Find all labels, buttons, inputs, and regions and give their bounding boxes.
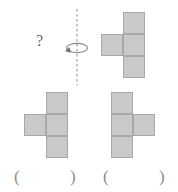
rotation-axis-group: [62, 8, 92, 86]
shape-option-a-bottom-left[interactable]: [24, 92, 70, 162]
shape-cell: [24, 114, 46, 136]
answer-blank-2[interactable]: ( ): [103, 168, 169, 188]
shape-cell: [111, 114, 133, 136]
shape-cell: [46, 114, 68, 136]
shape-option-b-bottom-right[interactable]: [111, 92, 157, 162]
shape-cell: [111, 136, 133, 158]
question-mark-label: ?: [36, 33, 43, 49]
shape-cell: [111, 92, 133, 114]
shape-cell: [133, 114, 155, 136]
puzzle-canvas: ? ( ) ( ): [0, 0, 178, 192]
shape-cell: [123, 56, 145, 78]
shape-cell: [46, 92, 68, 114]
shape-prompt-top-right: [101, 12, 147, 82]
shape-cell: [123, 34, 145, 56]
paren-close: ): [70, 168, 76, 185]
paren-open: (: [14, 168, 20, 185]
shape-cell: [123, 12, 145, 34]
shape-cell: [101, 34, 123, 56]
paren-close: ): [159, 168, 165, 185]
answer-blank-1[interactable]: ( ): [14, 168, 80, 188]
paren-open: (: [103, 168, 109, 185]
rotation-axis-svg: [62, 8, 92, 86]
shape-cell: [46, 136, 68, 158]
